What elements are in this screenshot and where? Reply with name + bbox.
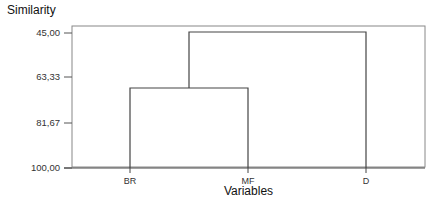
dendrogram-links [130, 32, 366, 168]
y-tick-label: 81,67 [10, 117, 60, 128]
y-tick-label: 100,00 [10, 162, 60, 173]
y-axis-ticks [64, 33, 72, 168]
x-axis-title: Variables [0, 184, 445, 198]
y-tick-label: 45,00 [10, 27, 60, 38]
link-brmf-d [189, 32, 366, 168]
leaf-ticks [130, 168, 366, 173]
y-tick-label: 63,33 [10, 71, 60, 82]
link-br-mf [130, 88, 248, 168]
y-axis-title: Similarity [7, 3, 56, 17]
